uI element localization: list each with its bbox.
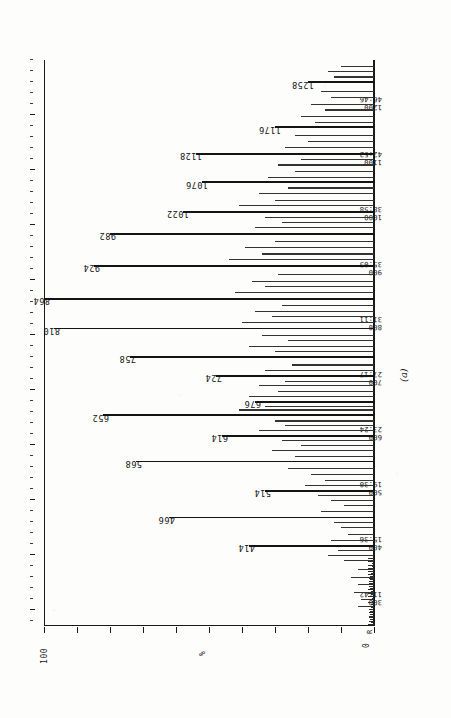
minor-peak (265, 217, 374, 218)
minor-peak (324, 109, 374, 110)
minor-peak (271, 450, 373, 451)
baseline-noise (368, 565, 374, 566)
peak-label: 414 (237, 543, 254, 553)
x-axis-minor-tick (30, 92, 33, 93)
x-axis-minor-tick (30, 345, 33, 346)
labeled-peak (308, 81, 374, 83)
y-axis-tick (44, 627, 45, 633)
x-axis-major-tick (30, 499, 35, 500)
baseline-noise (368, 602, 374, 603)
figure-page: 100 % 0 R 30011:4240015:3650019:3060023:… (0, 0, 451, 718)
minor-peak (255, 227, 374, 228)
baseline-noise (371, 604, 374, 605)
minor-peak (301, 116, 374, 117)
labeled-peak (129, 356, 373, 358)
x-axis-minor-tick (30, 422, 33, 423)
x-axis-minor-tick (30, 213, 33, 214)
y-axis-tick (242, 627, 243, 633)
minor-peak (258, 193, 374, 194)
minor-peak (255, 311, 374, 312)
minor-peak (238, 410, 373, 411)
x-axis-minor-tick (30, 235, 33, 236)
x-axis-minor-tick (30, 598, 33, 599)
peak-label: 568 (125, 459, 142, 469)
minor-peak (321, 511, 374, 512)
minor-peak (331, 500, 374, 501)
baseline-noise (369, 619, 373, 620)
minor-peak (284, 147, 373, 148)
minor-peak (265, 286, 374, 287)
baseline-noise (370, 622, 373, 623)
x-axis-minor-tick (30, 455, 33, 456)
x-axis-minor-tick (30, 191, 33, 192)
minor-peak (242, 322, 374, 323)
peak-series: 4144665145686146526767247588108649249821… (44, 60, 374, 626)
labeled-peak (93, 265, 374, 267)
peak-label: 652 (92, 413, 109, 423)
minor-peak (278, 164, 374, 165)
minor-peak (331, 97, 374, 98)
baseline-noise (372, 598, 374, 599)
labeled-peak (195, 153, 373, 155)
minor-peak (275, 351, 374, 352)
minor-peak (294, 135, 373, 136)
x-axis-minor-tick (30, 312, 33, 313)
minor-peak (301, 445, 374, 446)
peak-label: 982 (99, 231, 116, 241)
minor-peak (321, 91, 374, 92)
x-axis-major-tick (30, 609, 35, 610)
x-axis-minor-tick (30, 202, 33, 203)
baseline-noise (368, 621, 373, 622)
baseline-noise (372, 601, 374, 602)
x-axis-minor-tick (30, 125, 33, 126)
minor-peak (291, 364, 374, 365)
minor-peak (248, 346, 373, 347)
minor-peak (337, 550, 373, 551)
baseline-noise (371, 570, 373, 571)
x-axis-minor-tick (30, 565, 33, 566)
minor-peak (275, 200, 374, 201)
x-axis-minor-tick (30, 488, 33, 489)
baseline-noise (368, 599, 374, 600)
x-axis-minor-tick (30, 70, 33, 71)
x-axis-minor-tick (30, 323, 33, 324)
minor-peak (304, 485, 373, 486)
peak-label: 758 (119, 354, 136, 364)
minor-peak (341, 527, 374, 528)
y-axis-tick (143, 627, 144, 633)
origin-marker: R (366, 630, 374, 634)
baseline-noise (370, 607, 373, 608)
peak-label: 466 (158, 515, 175, 525)
y-axis-tick (341, 627, 342, 633)
labeled-peak (103, 414, 374, 416)
baseline-noise (370, 576, 374, 577)
labeled-peak (275, 126, 374, 128)
labeled-peak (182, 211, 373, 213)
labeled-peak (136, 461, 374, 463)
baseline-noise (368, 612, 373, 613)
x-axis-minor-tick (30, 136, 33, 137)
minor-peak (278, 391, 374, 392)
x-axis-minor-tick (30, 290, 33, 291)
minor-peak (308, 141, 374, 142)
minor-peak (314, 122, 373, 123)
labeled-peak (215, 375, 373, 377)
x-axis-minor-tick (30, 147, 33, 148)
minor-peak (281, 222, 373, 223)
minor-peak (281, 305, 373, 306)
minor-peak (347, 534, 373, 535)
baseline-noise (368, 624, 374, 625)
x-axis-minor-tick (30, 356, 33, 357)
x-axis-major-tick (30, 114, 35, 115)
minor-peak (344, 505, 374, 506)
minor-peak (235, 292, 374, 293)
peak-label: 924 (82, 263, 99, 273)
labeled-peak (110, 233, 374, 235)
peak-label: 676 (244, 399, 261, 409)
baseline-noise (368, 596, 374, 597)
x-axis-major-tick (30, 389, 35, 390)
minor-peak (284, 381, 373, 382)
minor-peak (275, 421, 374, 422)
minor-peak (324, 480, 374, 481)
x-axis-minor-tick (30, 576, 33, 577)
